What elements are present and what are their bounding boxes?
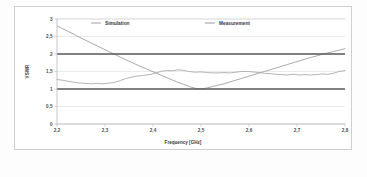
x-tick-label: 2,5 bbox=[198, 128, 205, 133]
y-tick-label: 1 bbox=[50, 87, 53, 92]
legend-label-measurement: Measurement bbox=[219, 21, 250, 26]
x-tick-label: 2,4 bbox=[150, 128, 157, 133]
y-tick-label: 0 bbox=[50, 122, 53, 127]
figure-container: 00,511,522,53 2,22,32,42,52,62,72,8 Freq… bbox=[0, 0, 367, 177]
x-axis-title: Frequency [GHz] bbox=[165, 140, 202, 145]
vswr-frequency-chart: 00,511,522,53 2,22,32,42,52,62,72,8 Freq… bbox=[15, 7, 351, 149]
y-tick-label: 1,5 bbox=[46, 69, 53, 74]
y-axis-title: VSWR bbox=[25, 64, 30, 78]
legend-label-simulation: Simulation bbox=[105, 21, 130, 26]
y-tick-label: 3 bbox=[50, 17, 53, 22]
y-tick-label: 0,5 bbox=[46, 104, 53, 109]
y-tick-label: 2,5 bbox=[46, 34, 53, 39]
x-tick-label: 2,8 bbox=[342, 128, 349, 133]
chart-background bbox=[15, 7, 351, 149]
x-tick-label: 2,7 bbox=[294, 128, 301, 133]
x-tick-label: 2,3 bbox=[102, 128, 109, 133]
x-tick-label: 2,2 bbox=[54, 128, 61, 133]
chart-card: 00,511,522,53 2,22,32,42,52,62,72,8 Freq… bbox=[14, 6, 352, 150]
x-tick-label: 2,6 bbox=[246, 128, 253, 133]
y-tick-label: 2 bbox=[50, 52, 53, 57]
